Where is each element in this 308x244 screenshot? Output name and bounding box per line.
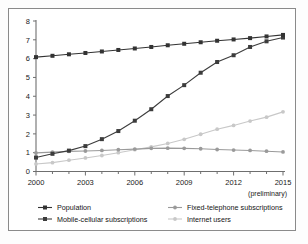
legend-item-label[interactable]: Population	[57, 203, 91, 212]
legend-marker-symbol	[43, 206, 47, 210]
data-point-marker	[182, 137, 186, 141]
legend-marker-symbol	[173, 217, 177, 221]
data-point-marker	[248, 45, 252, 49]
data-point-marker	[281, 110, 285, 114]
y-axis-tick-label: 1	[26, 148, 30, 157]
series-3	[34, 110, 285, 166]
data-point-marker	[182, 42, 186, 46]
legend-item-label[interactable]: Mobile-cellular subscriptions	[57, 215, 148, 224]
legend-item-label[interactable]: Internet users	[187, 215, 231, 224]
y-axis-tick-label: 6	[26, 54, 30, 63]
data-point-marker	[281, 33, 285, 37]
data-point-marker	[50, 54, 54, 58]
series-line	[36, 148, 283, 153]
legend-marker-symbol	[173, 206, 177, 210]
data-point-marker	[133, 46, 137, 50]
data-point-marker	[149, 146, 153, 150]
plot-area: 012345678200020032006200920122015(prelim…	[0, 0, 308, 244]
data-point-marker	[265, 115, 269, 119]
data-point-marker	[133, 147, 137, 151]
data-point-marker	[215, 148, 219, 152]
data-point-marker	[67, 52, 71, 56]
x-axis-tick-label: 2003	[77, 178, 94, 187]
data-point-marker	[34, 151, 38, 155]
data-point-marker	[100, 149, 104, 153]
data-point-marker	[84, 156, 88, 160]
y-axis-tick-label: 4	[26, 92, 30, 101]
x-axis-tick-label: 2009	[176, 178, 193, 187]
x-axis-tick-label: 2000	[28, 178, 45, 187]
data-point-marker	[232, 148, 236, 152]
data-point-marker	[232, 37, 236, 41]
data-point-marker	[166, 43, 170, 47]
data-point-marker	[34, 162, 38, 166]
data-point-marker	[199, 71, 203, 75]
data-point-marker	[67, 158, 71, 162]
y-axis-tick-label: 8	[26, 17, 30, 26]
figure-container: 012345678200020032006200920122015(prelim…	[0, 0, 308, 244]
data-point-marker	[248, 149, 252, 153]
legend-marker-symbol	[43, 217, 47, 221]
x-axis-tick-label: 2006	[126, 178, 143, 187]
data-point-marker	[34, 55, 38, 59]
y-axis-tick-label: 7	[26, 36, 30, 45]
data-point-marker	[215, 127, 219, 131]
data-point-marker	[265, 39, 269, 43]
series-line	[36, 38, 283, 158]
data-point-marker	[215, 39, 219, 43]
data-point-marker	[232, 53, 236, 57]
y-axis-tick-label: 5	[26, 73, 30, 82]
data-point-marker	[100, 137, 104, 141]
data-point-marker	[265, 149, 269, 153]
preliminary-note: (preliminary)	[248, 190, 287, 198]
data-point-marker	[182, 146, 186, 150]
series-line	[36, 35, 283, 57]
data-point-marker	[116, 48, 120, 52]
data-point-marker	[100, 49, 104, 53]
y-axis-tick-label: 3	[26, 111, 30, 120]
data-point-marker	[248, 119, 252, 123]
data-point-marker	[248, 36, 252, 40]
data-point-marker	[133, 119, 137, 123]
x-axis-tick-label: 2012	[225, 178, 242, 187]
x-axis-tick-label: 2015	[275, 178, 292, 187]
data-point-marker	[116, 148, 120, 152]
data-point-marker	[281, 150, 285, 154]
data-point-marker	[50, 152, 54, 156]
data-point-marker	[199, 40, 203, 44]
data-point-marker	[199, 147, 203, 151]
data-point-marker	[34, 156, 38, 160]
series-line	[36, 112, 283, 164]
data-point-marker	[149, 107, 153, 111]
data-point-marker	[232, 124, 236, 128]
y-axis-tick-label: 2	[26, 130, 30, 139]
data-point-marker	[149, 45, 153, 49]
data-point-marker	[84, 149, 88, 153]
data-point-marker	[182, 83, 186, 87]
data-point-marker	[116, 129, 120, 133]
line-chart: 012345678200020032006200920122015(prelim…	[0, 0, 308, 244]
data-point-marker	[51, 161, 55, 165]
data-point-marker	[215, 60, 219, 64]
series-2	[34, 146, 285, 155]
data-point-marker	[265, 34, 269, 38]
data-point-marker	[83, 144, 87, 148]
data-point-marker	[83, 51, 87, 55]
series-0	[34, 33, 285, 59]
data-point-marker	[166, 146, 170, 150]
data-point-marker	[67, 149, 71, 153]
legend-item-label[interactable]: Fixed-telephone subscriptions	[187, 203, 283, 212]
data-point-marker	[166, 142, 170, 146]
data-point-marker	[199, 132, 203, 136]
y-axis-tick-label: 0	[26, 167, 30, 176]
data-point-marker	[166, 94, 170, 98]
data-point-marker	[100, 154, 104, 158]
